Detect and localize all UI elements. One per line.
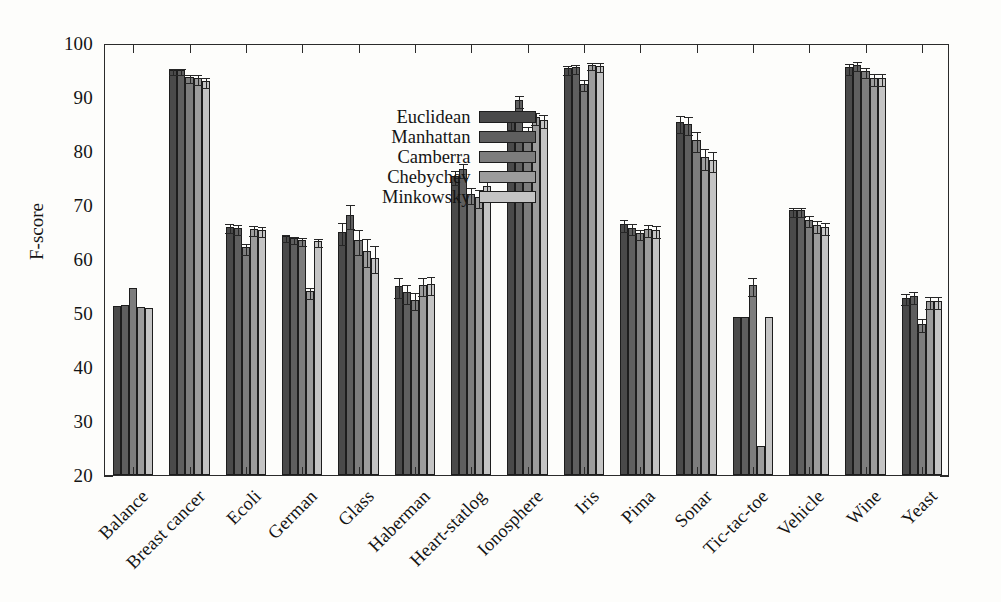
- bar: [757, 446, 765, 475]
- bar: [845, 67, 853, 475]
- error-bar-cap: [934, 297, 943, 298]
- x-tick-mark: [866, 467, 867, 475]
- error-bar: [544, 115, 545, 128]
- error-bar-cap: [177, 69, 186, 70]
- error-bar: [246, 244, 247, 255]
- error-bar-cap: [427, 295, 436, 296]
- error-bar-cap: [282, 235, 291, 236]
- error-bar: [367, 239, 368, 267]
- error-bar-cap: [748, 278, 757, 279]
- bar: [298, 240, 306, 475]
- bar: [934, 301, 942, 475]
- bar: [371, 258, 379, 475]
- error-bar: [801, 208, 802, 218]
- bar: [427, 284, 435, 475]
- bar: [870, 78, 878, 475]
- x-tick-mark-top: [133, 45, 134, 53]
- x-tick-mark: [302, 467, 303, 475]
- bar: [338, 232, 346, 475]
- error-bar-cap: [298, 238, 307, 239]
- error-bar: [359, 230, 360, 255]
- bar: [813, 225, 821, 475]
- error-bar: [584, 80, 585, 91]
- bar: [572, 67, 580, 475]
- error-bar: [705, 149, 706, 170]
- x-tick-label: Vehicle: [774, 486, 829, 541]
- error-bar-cap: [571, 65, 580, 66]
- bar: [902, 298, 910, 475]
- error-bar-cap: [877, 74, 886, 75]
- bar: [588, 65, 596, 475]
- error-bar-cap: [596, 72, 605, 73]
- bar: [620, 224, 628, 475]
- bar: [451, 176, 459, 475]
- x-tick-mark: [133, 467, 134, 475]
- legend-item: Chebychev: [382, 167, 536, 187]
- error-bar: [568, 66, 569, 76]
- error-bar-cap: [692, 152, 701, 153]
- error-bar: [423, 278, 424, 296]
- legend-swatch: [479, 111, 536, 123]
- x-tick-mark: [528, 467, 529, 475]
- y-tick-label: 60: [74, 249, 93, 271]
- error-bar: [407, 285, 408, 303]
- bar: [861, 71, 869, 475]
- error-bar: [262, 227, 263, 237]
- bar: [741, 317, 749, 475]
- error-bar-cap: [402, 285, 411, 286]
- bar: [853, 65, 861, 475]
- y-tick-label: 90: [74, 87, 93, 109]
- error-bar-cap: [258, 237, 267, 238]
- bar: [926, 301, 934, 475]
- y-tick-label: 100: [64, 33, 93, 55]
- x-tick-mark: [753, 467, 754, 475]
- bar: [250, 229, 258, 475]
- error-bar: [415, 293, 416, 310]
- bar: [789, 210, 797, 475]
- bar: [290, 238, 298, 475]
- x-tick-mark-top: [584, 45, 585, 53]
- error-bar: [350, 205, 351, 229]
- error-bar: [624, 220, 625, 232]
- bar: [411, 300, 419, 476]
- error-bar-cap: [797, 217, 806, 218]
- bar: [459, 169, 467, 475]
- legend-label: Euclidean: [396, 107, 479, 128]
- legend-label: Chebychev: [387, 167, 479, 188]
- bar: [636, 233, 644, 475]
- bar: [709, 160, 717, 475]
- legend-item: Euclidean: [382, 107, 536, 127]
- bar: [129, 288, 137, 475]
- legend-item: Minkowsky: [382, 187, 536, 207]
- error-bar: [713, 152, 714, 173]
- error-bar-cap: [596, 63, 605, 64]
- error-bar-cap: [684, 117, 693, 118]
- x-tick-label: Iris: [571, 486, 604, 519]
- error-bar-cap: [362, 239, 371, 240]
- error-bar: [318, 239, 319, 247]
- error-bar: [342, 223, 343, 245]
- x-tick-label: Glass: [334, 486, 379, 531]
- error-bar-cap: [652, 238, 661, 239]
- error-bar-cap: [201, 88, 210, 89]
- legend: EuclideanManhattanCamberraChebychevMinko…: [382, 107, 536, 207]
- legend-swatch: [479, 151, 536, 163]
- y-tick-label: 70: [74, 195, 93, 217]
- x-tick-mark: [471, 467, 472, 475]
- error-bar: [519, 96, 520, 108]
- error-bar-cap: [821, 235, 830, 236]
- error-bar: [922, 319, 923, 332]
- x-tick-label: Pima: [618, 486, 660, 528]
- bar: [821, 227, 829, 475]
- error-bar-cap: [193, 75, 202, 76]
- error-bar: [190, 75, 191, 84]
- bar: [194, 78, 202, 475]
- y-tick-label: 50: [74, 303, 93, 325]
- bar: [580, 84, 588, 476]
- x-tick-mark-top: [866, 45, 867, 53]
- error-bar-cap: [427, 277, 436, 278]
- bar: [137, 307, 145, 475]
- bar: [242, 247, 250, 475]
- error-bar: [697, 132, 698, 151]
- error-bar: [310, 288, 311, 299]
